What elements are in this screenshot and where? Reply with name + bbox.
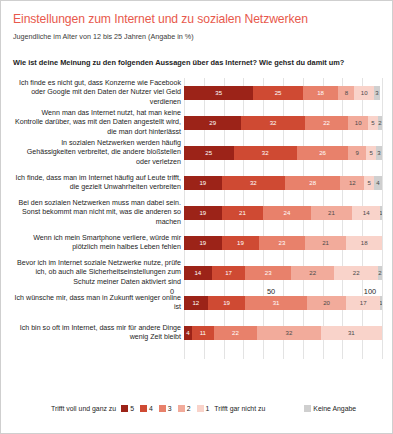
bar-segment: 19 xyxy=(184,176,222,190)
bar-segment: 25 xyxy=(184,146,234,160)
bar-segment: 23 xyxy=(259,236,305,250)
legend-label-5: 5 xyxy=(130,405,134,412)
legend-no-answer-label: Keine Angabe xyxy=(313,405,356,412)
bar-segment: 22 xyxy=(334,266,378,280)
bar-segment: 10 xyxy=(354,86,374,100)
page-title: Einstellungen zum Internet und zu sozial… xyxy=(13,12,382,27)
bar-segment: 22 xyxy=(291,266,335,280)
bar-segment: 35 xyxy=(184,86,253,100)
legend-left-label: Trifft voll und ganz zu xyxy=(51,405,116,412)
x-tick-label: 50 xyxy=(267,287,275,296)
bar-segment: 28 xyxy=(285,176,340,190)
stacked-bar: 2932221052 xyxy=(184,116,382,130)
bar-segment: 21 xyxy=(222,206,264,220)
category-label: Ich bin so oft im Internet, dass mir für… xyxy=(13,324,181,343)
bar-segment: 5 xyxy=(368,116,378,130)
bar-segment: 31 xyxy=(321,326,382,340)
bar-segment: 5 xyxy=(364,176,374,190)
bar-segment: 14 xyxy=(184,266,212,280)
bar-segment: 24 xyxy=(263,206,311,220)
legend-swatch-2 xyxy=(178,405,185,412)
bar-segment: 8 xyxy=(338,86,354,100)
bar-segment: 3 xyxy=(374,86,380,100)
bar-segment: 1 xyxy=(380,296,382,310)
stacked-bar: 411223231 xyxy=(184,326,382,340)
category-labels: Ich finde es nicht gut, dass Konzerne wi… xyxy=(13,78,181,359)
category-label: Ich finde es nicht gut, dass Konzerne wi… xyxy=(13,79,181,107)
bar-segment: 21 xyxy=(311,206,353,220)
chart-question: Wie ist deine Meinung zu den folgenden A… xyxy=(13,58,382,68)
legend-no-answer: Keine Angabe xyxy=(299,405,356,412)
bar-segment: 26 xyxy=(297,146,348,160)
bar-segment: 19 xyxy=(184,206,222,220)
legend-label-4: 4 xyxy=(149,405,153,412)
bar-segment: 32 xyxy=(241,116,304,130)
category-label: In sozialen Netzwerken werden häufig Geh… xyxy=(13,139,181,167)
bar-segment: 2 xyxy=(378,266,382,280)
bar-segment: 10 xyxy=(348,116,368,130)
bar-segment: 22 xyxy=(305,116,349,130)
category-label: Wenn ich mein Smartphone verliere, würde… xyxy=(13,234,181,253)
stacked-bar: 253226953 xyxy=(184,146,382,160)
bar-segment: 25 xyxy=(253,86,303,100)
bar-segment: 18 xyxy=(346,236,382,250)
stacked-bar: 19212421141 xyxy=(184,206,382,220)
bar-segment: 19 xyxy=(184,236,222,250)
bar-segment: 23 xyxy=(245,266,291,280)
legend-swatch-keine-angabe xyxy=(304,405,311,412)
x-tick-label: 100 xyxy=(364,287,376,296)
bar-segment: 12 xyxy=(340,176,364,190)
chart-card: Einstellungen zum Internet und zu sozial… xyxy=(0,0,393,434)
legend-right-label: Trifft gar nicht zu xyxy=(214,405,265,412)
stacked-bar: 3525188103 xyxy=(184,86,382,100)
bar-segment: 11 xyxy=(192,326,214,340)
bar-segment: 29 xyxy=(184,116,241,130)
category-label: Ich wünsche mir, dass man in Zukunft wen… xyxy=(13,294,181,313)
x-axis: 050100 xyxy=(172,287,370,299)
legend-label-3: 3 xyxy=(168,405,172,412)
legend-swatch-1 xyxy=(197,405,204,412)
legend-label-1: 1 xyxy=(206,405,210,412)
chart-plot-area: Ich finde es nicht gut, dass Konzerne wi… xyxy=(13,78,382,359)
bar-segment: 32 xyxy=(234,146,297,160)
legend-items: 54321 xyxy=(116,405,210,412)
bar-segment: 4 xyxy=(184,326,192,340)
legend-swatch-4 xyxy=(140,405,147,412)
bar-segment: 1 xyxy=(380,206,382,220)
bar-segment: 2 xyxy=(378,116,382,130)
bar-segment: 32 xyxy=(222,176,285,190)
bar-segment: 14 xyxy=(352,206,380,220)
bar-segment: 3 xyxy=(376,146,382,160)
bar-segment: 4 xyxy=(374,176,382,190)
chart-subtitle: Jugendliche im Alter von 12 bis 25 Jahre… xyxy=(13,32,382,42)
gridline xyxy=(382,78,383,359)
category-label: Ich finde, dass man im Internet häufig a… xyxy=(13,174,181,193)
bar-segment: 32 xyxy=(257,326,320,340)
category-label: Bevor ich im Internet soziale Netzwerke … xyxy=(13,259,181,287)
stacked-bar: 14172322222 xyxy=(184,266,382,280)
bar-segment: 17 xyxy=(212,266,246,280)
legend-swatch-3 xyxy=(159,405,166,412)
bar-segment: 18 xyxy=(303,86,339,100)
bars-area: 3525188103293222105225322695319322812541… xyxy=(184,78,382,359)
x-tick-label: 0 xyxy=(170,287,174,296)
category-label: Bei den sozialen Netzwerken muss man dab… xyxy=(13,199,181,227)
legend-label-2: 2 xyxy=(187,405,191,412)
stacked-bar: 1932281254 xyxy=(184,176,382,190)
category-label: Wenn man das Internet nutzt, hat man kei… xyxy=(13,109,181,137)
bar-segment: 9 xyxy=(348,146,366,160)
chart-legend: Trifft voll und ganz zu 54321 Trifft gar… xyxy=(13,405,382,412)
bar-segment: 5 xyxy=(366,146,376,160)
stacked-bar: 1919232118 xyxy=(184,236,382,250)
legend-swatch-5 xyxy=(121,405,128,412)
bar-segment: 19 xyxy=(222,236,260,250)
bar-segment: 22 xyxy=(214,326,258,340)
bar-segment: 21 xyxy=(305,236,347,250)
